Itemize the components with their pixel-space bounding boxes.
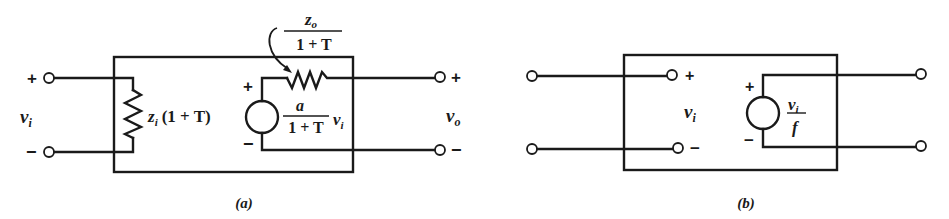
- output-terminal-top-b: [916, 69, 926, 79]
- output-voltage-label: vo: [446, 105, 460, 129]
- inner-terminal-plus: [667, 70, 677, 80]
- input-plus-sign: +: [27, 69, 37, 88]
- source-minus-sign-b: −: [744, 131, 754, 150]
- source-minus-sign: −: [243, 134, 254, 154]
- source-numerator-b: vi: [788, 95, 800, 115]
- output-bottom-wire-b: [763, 129, 916, 147]
- output-minus-sign: −: [451, 140, 462, 160]
- input-top-wire: [54, 78, 133, 90]
- source-top-wire: [262, 78, 287, 101]
- input-terminal-minus: [44, 147, 54, 157]
- input-impedance-label: zi(1 + T): [147, 107, 211, 128]
- input-minus-sign: −: [26, 142, 37, 162]
- output-terminal-bottom-b: [916, 141, 926, 151]
- inner-voltage-label: vi: [684, 101, 696, 125]
- output-plus-sign: +: [451, 68, 461, 87]
- panel-a: + − vi zi(1 + T) + − a 1 + T vi zo 1 + T…: [20, 10, 462, 212]
- output-terminal-plus: [435, 72, 445, 82]
- inner-minus-sign: −: [690, 139, 700, 158]
- gain-denominator: 1 + T: [288, 119, 324, 136]
- output-top-wire-b: [763, 75, 916, 97]
- voltage-source-icon-b: [747, 97, 779, 129]
- output-resistor-icon: [287, 72, 440, 88]
- panel-b: + − vi + − vi f (b): [527, 55, 926, 212]
- output-impedance-numerator: zo: [304, 10, 318, 30]
- input-terminal-top-b: [527, 71, 537, 81]
- input-terminal-bottom-b: [527, 144, 537, 154]
- source-denominator-b: f: [792, 118, 800, 137]
- inner-plus-sign: +: [685, 67, 694, 84]
- gain-control-voltage: vi: [333, 110, 345, 131]
- inner-terminal-minus: [673, 143, 683, 153]
- source-plus-sign-b: +: [745, 78, 754, 95]
- input-terminal-plus: [44, 73, 54, 83]
- voltage-source-icon: [246, 101, 278, 133]
- source-plus-sign: +: [243, 77, 253, 96]
- circuit-diagram: + − vi zi(1 + T) + − a 1 + T vi zo 1 + T…: [0, 0, 949, 219]
- caption-a: (a): [235, 195, 253, 212]
- pointer-arrow-icon: [269, 28, 288, 69]
- input-bottom-wire: [54, 138, 133, 152]
- input-voltage-label: vi: [20, 106, 32, 130]
- output-impedance-denominator: 1 + T: [296, 36, 332, 53]
- output-terminal-minus: [435, 145, 445, 155]
- input-resistor-icon: [125, 90, 141, 138]
- caption-b: (b): [737, 195, 755, 212]
- gain-numerator: a: [296, 97, 304, 114]
